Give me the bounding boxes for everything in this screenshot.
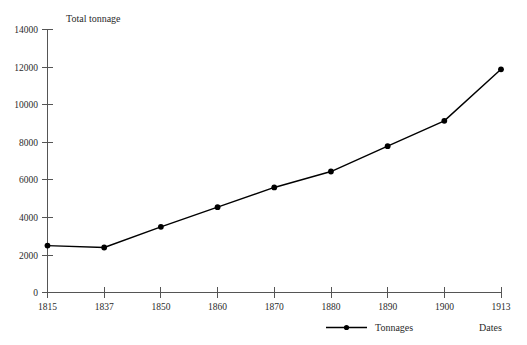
legend: Tonnages [326,322,413,333]
x-tick-label: 1890 [378,302,397,312]
data-point [215,204,221,210]
x-axis-title: Dates [479,322,502,333]
series-line-tonnages [48,69,502,247]
x-tick-label: 1913 [492,302,511,312]
data-point [158,224,164,230]
x-tick-label: 1870 [265,302,284,312]
legend-marker-icon [344,325,349,330]
y-tick-label: 4000 [19,213,38,223]
data-point [45,243,51,249]
x-tick-label: 1815 [38,302,57,312]
data-point [328,169,334,175]
data-point [271,185,277,191]
y-tick-label: 10000 [14,100,38,110]
y-tick-label: 6000 [19,175,38,185]
x-tick-label: 1880 [322,302,341,312]
x-tick-label: 1860 [208,302,227,312]
data-point [101,245,107,251]
data-point [385,143,391,149]
x-tick-label: 1837 [95,302,114,312]
legend-label-tonnages: Tonnages [375,322,413,333]
x-tick-label: 1900 [435,302,454,312]
x-axis-ticks: 1815 1837 1850 1860 1870 1880 1890 1900 … [38,287,511,312]
x-tick-label: 1850 [151,302,170,312]
y-tick-label: 0 [33,288,38,298]
y-tick-label: 2000 [19,251,38,261]
y-axis-title: Total tonnage [66,13,121,24]
line-chart: Total tonnage 0 2000 4000 6000 8000 1000… [0,0,527,345]
chart-figure: Total tonnage 0 2000 4000 6000 8000 1000… [0,0,527,345]
y-tick-label: 12000 [14,63,38,73]
y-tick-label: 14000 [14,25,38,35]
data-point [498,66,504,72]
y-tick-label: 8000 [19,138,38,148]
data-point [441,118,447,124]
series-markers-tonnages [45,66,504,250]
